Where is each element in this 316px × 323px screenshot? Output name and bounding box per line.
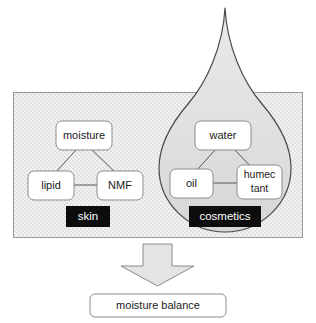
- node-oil[interactable]: oil: [170, 169, 213, 198]
- moisture-balance-diagram: moisture lipid NMF water oil humec tant: [0, 0, 316, 323]
- node-humectant[interactable]: humec tant: [237, 165, 282, 199]
- node-water-label: water: [209, 129, 237, 141]
- node-humectant-label-line2: tant: [251, 182, 269, 194]
- node-lipid[interactable]: lipid: [28, 171, 74, 200]
- result-node-label: moisture balance: [116, 299, 200, 311]
- node-nmf-label: NMF: [108, 179, 132, 191]
- group-tag-cosmetics: cosmetics: [189, 206, 261, 227]
- node-humectant-label-line1: humec: [244, 168, 276, 180]
- group-tag-skin-label: skin: [78, 210, 98, 222]
- node-nmf[interactable]: NMF: [97, 171, 143, 200]
- node-lipid-label: lipid: [41, 179, 61, 191]
- node-moisture[interactable]: moisture: [56, 121, 112, 150]
- group-tag-cosmetics-label: cosmetics: [199, 210, 250, 222]
- group-tag-skin: skin: [66, 206, 110, 227]
- node-moisture-label: moisture: [63, 129, 105, 141]
- node-oil-label: oil: [186, 177, 197, 189]
- down-arrow: [121, 244, 194, 286]
- node-water[interactable]: water: [195, 121, 251, 150]
- diagram-canvas: moisture lipid NMF water oil humec tant: [0, 0, 316, 323]
- result-node[interactable]: moisture balance: [90, 294, 226, 317]
